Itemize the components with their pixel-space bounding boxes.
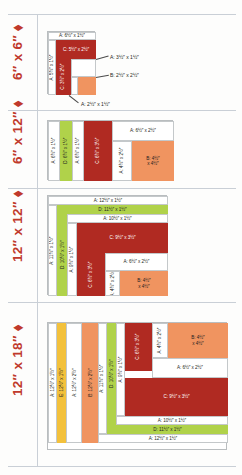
diagram-6x12: A: 6½″ x 1½″ D: 6½″ x 1½″ A: 6½″ x 1½″ C… [47,120,173,180]
piece-b-4half-x-4half: B: 4½″x 4½″ [168,323,228,358]
piece-b-4half-x-4half: B: 4½″x 4½″ [120,271,168,296]
piece-d-11half-x-1half: D: 11½″ x 1½″ [57,205,168,214]
piece-d-10half-x-1half: D: 10½″ x 1½″ [107,323,116,425]
piece-a-3half-x-1half-filler [71,59,96,77]
section-block-6x6: 6″ x 6″ ⬧ A: 6½″ x 1½″ A: 5½″ x 1½″ C: 5… [0,14,242,110]
section-block-12x18: 12″ x 18″ ⬧ A: 12½″ x 1½″ E: 12½″ x 1½″ … [0,302,242,472]
section-label-12x12: 12″ x 12″ ⬧ [10,226,26,262]
section-label-6x6: 6″ x 6″ ⬧ [10,44,26,80]
section-block-12x12: 12″ x 12″ ⬧ A: 12½″ x 1½″ D: 11½″ x 1½″ … [0,188,242,302]
piece-a-9half-x-1half: A: 9½″ x 1½″ [116,323,125,416]
piece-a-12half-x-1half: A: 12½″ x 1½″ [48,196,168,205]
diagram-6x6: A: 6½″ x 1½″ A: 5½″ x 1½″ C: 5½″ x 2½″ C… [47,31,95,94]
piece-a-6half-x-2half: A: 6½″ x 2½″ [105,253,168,271]
leader-line-a-3half [96,55,109,60]
callout-b-2half-x-2half: B: 2½″ x 2½″ [110,72,139,78]
piece-a-5half-x-1half-left: A: 5½″ x 1½″ [48,40,56,95]
piece-a-2half-x-1half [71,77,78,95]
piece-b-4half-x-4half: B: 4½″x 4½″ [132,141,174,181]
piece-a-4half-x-2half: A: 4½″ x 2½″ [152,323,168,358]
piece-c-6half-x-3half: C: 6½″ x 3½″ [84,121,112,181]
piece-a-9half-x-1half: A: 9½″ x 1½″ [67,223,77,296]
piece-c-9half-x-3half: C: 9½″ x 3½″ [125,378,228,416]
piece-c-6half-x-3half: C: 6½″ x 3½″ [77,253,105,296]
piece-a-6half-x-1half-top: A: 6½″ x 1½″ [48,32,96,40]
piece-a-6half-x-1half-2: A: 6½″ x 1½″ [72,121,84,181]
callout-a-2half-x-1half: A: 2½″ x 1½″ [81,101,110,107]
leader-line-b-2half [96,75,109,78]
piece-a-6half-x-1half-1: A: 6½″ x 1½″ [48,121,60,181]
piece-c-6half-x-3half: C: 6½″ x 3½″ [125,323,152,371]
piece-c-3half-x-2half: C: 3½″ x 2½″ [56,59,71,95]
piece-a-6half-x-2half: A: 6½″ x 2½″ [112,121,174,141]
piece-a-6half-x-2half: A: 6½″ x 2½″ [152,358,228,378]
piece-a-12half-x-1half-bottom: A: 12½″ x 1½″ [98,434,228,443]
piece-e-12half-x-1half: E: 12½″ x 1½″ [57,323,66,443]
piece-d-6half-x-1half: D: 6½″ x 1½″ [60,121,72,181]
callout-a-3half-x-1half: A: 3½″ x 1½″ [110,54,139,60]
piece-d-10half-x-1half: D: 10½″ x 1½″ [57,214,67,296]
cutting-diagram-page: 6″ x 6″ ⬧ A: 6½″ x 1½″ A: 5½″ x 1½″ C: 5… [0,0,242,475]
piece-b-12half-x-2half: B: 12½″ x 2½″ [82,323,98,443]
piece-a-11half-x-1half: A: 11½″ x 1½″ [48,205,57,296]
piece-b-2half-x-2half [78,77,96,95]
piece-c-9half-x-3half: C: 9½″ x 3½″ [77,223,168,253]
piece-a-12half-x-2half: A: 12½″ x 2½″ [66,323,82,443]
piece-a-4half-x-2half: A: 4½″ x 2½″ [105,271,120,296]
piece-a-10half-x-1half-bottom: A: 10½″ x 1½″ [116,416,228,425]
section-label-12x18: 12″ x 18″ ⬧ [10,360,26,396]
leader-line-a-2half [69,95,79,103]
piece-a-11half-x-1half: A: 11½″ x 1½″ [98,323,107,434]
piece-c-5half-x-2half: C: 5½″ x 2½″ [56,40,96,59]
piece-d-11half-x-1half-bottom: D: 11½″ x 1½″ [107,425,228,434]
section-block-6x12: 6″ x 12″ ⬧ A: 6½″ x 1½″ D: 6½″ x 1½″ A: … [0,110,242,188]
section-label-6x12: 6″ x 12″ ⬧ [10,128,26,164]
section-divider-bottom [8,466,236,467]
piece-a-12half-x-1half-left: A: 12½″ x 1½″ [48,323,57,443]
piece-a-10half-x-1half: A: 10½″ x 1½″ [67,214,168,223]
piece-a-4half-x-2half: A: 4½″ x 2½″ [112,141,132,181]
diagram-12x12: A: 12½″ x 1½″ D: 11½″ x 1½″ A: 10½″ x 1½… [47,195,167,295]
diagram-12x18: A: 12½″ x 1½″ E: 12½″ x 1½″ A: 12½″ x 2½… [47,322,227,450]
